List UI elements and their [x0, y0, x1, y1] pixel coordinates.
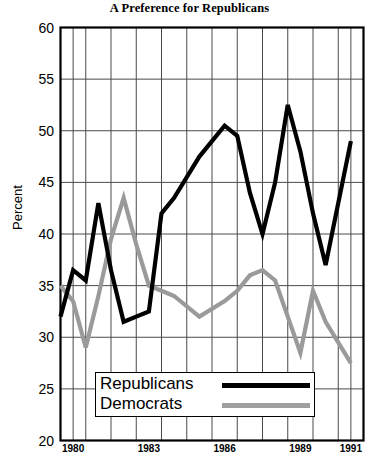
legend-entry-democrats: Democrats — [100, 394, 312, 415]
line-republicans — [61, 105, 351, 322]
legend-entry-republicans: Republicans — [100, 374, 312, 395]
legend-label-democrats: Democrats — [100, 394, 182, 414]
legend-swatch-democrats — [222, 403, 310, 408]
legend-swatch-republicans — [222, 383, 310, 388]
legend-label-republicans: Republicans — [100, 374, 194, 394]
chart-container: A Preference for Republicans Percent 605… — [0, 0, 379, 469]
chart-legend: Republicans Democrats — [95, 372, 315, 417]
